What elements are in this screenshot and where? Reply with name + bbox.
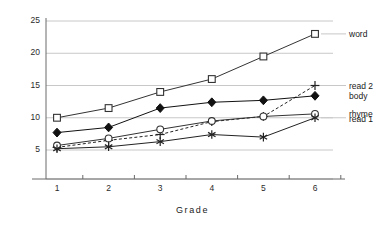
series-word [54,31,319,122]
x-tick-label: 5 [253,183,273,193]
series-rhyme [54,110,319,148]
x-tick-label: 2 [99,183,119,193]
plot-area [0,0,385,233]
data-point-open-circle [208,118,215,125]
data-point-open-square [157,89,164,96]
data-point-filled-diamond [208,98,216,107]
data-point-plus [311,81,320,90]
x-axis [32,175,345,179]
data-point-open-square [208,76,215,83]
data-point-open-circle [105,135,112,142]
legend-item-label: read 2 [349,81,373,91]
data-point-filled-diamond [53,128,61,137]
data-point-open-square [312,31,319,38]
legend-item-body: body [349,91,367,101]
legend-item-label: word [349,29,367,39]
data-point-open-circle [157,126,164,133]
legend-item-label: read 1 [349,114,373,124]
x-tick-label: 6 [305,183,325,193]
data-point-filled-diamond [105,123,113,132]
legend-item-read-1: read 1 [349,114,373,124]
x-tick-label: 4 [202,183,222,193]
x-tick-label: 3 [150,183,170,193]
series-read-1 [53,113,318,153]
y-tick-label: 5 [20,144,40,154]
data-point-open-square [105,105,112,112]
y-tick-label: 10 [20,112,40,122]
legend-item-label: body [349,91,367,101]
y-tick-label: 15 [20,80,40,90]
legend-item-read-2: read 2 [349,81,373,91]
y-tick-label: 25 [20,15,40,25]
x-axis-title: Grade [0,205,385,215]
data-point-open-circle [260,113,267,120]
data-point-open-square [54,114,61,121]
series-read-2 [53,81,320,152]
data-point-open-square [260,53,267,60]
data-point-filled-diamond [311,91,319,100]
x-tick-label: 1 [47,183,67,193]
series-body [53,91,319,137]
legend-leader-lines [321,34,346,118]
data-point-filled-diamond [259,96,267,105]
line-chart: 510152025123456 wordread 2bodyrhymeread … [0,0,385,233]
legend-item-word: word [349,29,367,39]
data-point-filled-diamond [156,104,164,113]
y-tick-label: 20 [20,47,40,57]
